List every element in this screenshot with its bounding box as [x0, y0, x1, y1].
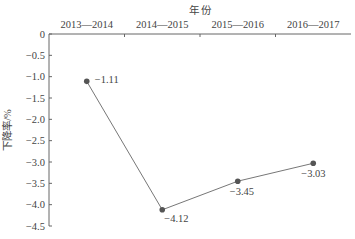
x-tick-label: 2016—2017 — [287, 19, 340, 30]
y-tick-label: −3.5 — [26, 178, 45, 189]
y-tick-label: −3.0 — [26, 157, 45, 168]
data-point — [235, 178, 241, 184]
y-tick-label: −4.0 — [26, 199, 45, 210]
data-label: −1.11 — [95, 74, 119, 85]
x-tick-label: 2013—2014 — [61, 19, 114, 30]
y-tick-label: −1.5 — [26, 93, 45, 104]
data-point — [84, 79, 90, 85]
y-tick-label: −1.0 — [26, 71, 45, 82]
y-tick-label: −2.0 — [26, 114, 45, 125]
data-label: −3.03 — [301, 168, 325, 179]
data-line — [87, 81, 314, 209]
data-point — [159, 207, 165, 213]
x-tick-label: 2015—2016 — [212, 19, 265, 30]
y-axis-title: 下降率/% — [1, 109, 13, 151]
x-tick-label: 2014—2015 — [136, 19, 189, 30]
data-label: −3.45 — [230, 186, 254, 197]
y-tick-label: 0 — [40, 29, 45, 40]
y-tick-label: −0.5 — [26, 50, 45, 61]
data-point — [310, 160, 316, 166]
x-axis-title: 年 份 — [189, 4, 213, 16]
line-chart: 2013—20142014—20152015—20162016—2017年 份0… — [0, 0, 355, 239]
data-label: −4.12 — [164, 213, 188, 224]
y-tick-label: −4.5 — [26, 221, 45, 232]
y-tick-label: −2.5 — [26, 135, 45, 146]
